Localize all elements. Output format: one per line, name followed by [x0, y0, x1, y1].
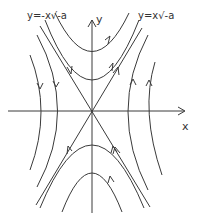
- y-axis-label: y: [96, 13, 103, 26]
- asymptote-label-positive: y=x√-a: [138, 10, 174, 21]
- arrow-icon: [37, 83, 43, 89]
- trajectory-left-outer: [30, 55, 41, 170]
- x-axis-label: x: [182, 120, 189, 133]
- trajectory-right-outer: [149, 62, 162, 175]
- asymptote-label-negative: y=-x√-a: [27, 10, 67, 21]
- asymptote-line-positive: [36, 28, 142, 205]
- arrow-icon: [108, 176, 114, 183]
- trajectory-right-inner: [128, 35, 148, 190]
- arrow-icon: [67, 66, 72, 74]
- phase-portrait: x y y=-x√-a y=x√-a: [0, 0, 200, 221]
- asymptote-line-negative: [40, 26, 150, 207]
- arrow-icon: [53, 81, 59, 87]
